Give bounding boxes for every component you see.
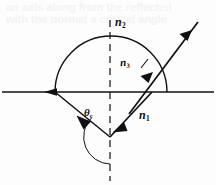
label-n1-subscript: 1 <box>146 114 150 123</box>
semicircular-boundary-arc <box>55 36 167 92</box>
label-critical-angle: θc <box>84 107 93 118</box>
label-n2: n2 <box>115 16 125 28</box>
outgoing-ray-mid-arrowhead <box>141 72 154 83</box>
label-n2-subscript: 2 <box>122 21 126 30</box>
label-n1-symbol: n <box>139 108 146 122</box>
label-n2-symbol: n <box>115 15 122 29</box>
label-n1: n1 <box>139 109 149 121</box>
optics-diagram-figure: an axis along from the reflected with th… <box>0 0 216 185</box>
diagram-canvas <box>0 0 216 185</box>
label-n3: n3 <box>120 57 130 68</box>
outgoing-ray-arrowhead <box>180 30 193 41</box>
label-theta-subscript: c <box>90 112 93 119</box>
reflected-ray-arrowhead <box>113 122 128 133</box>
label-n3-subscript: 3 <box>126 62 130 69</box>
n3-tick-mark <box>141 59 148 68</box>
incident-ray-segment <box>55 92 110 137</box>
label-theta-symbol: θ <box>84 106 90 118</box>
